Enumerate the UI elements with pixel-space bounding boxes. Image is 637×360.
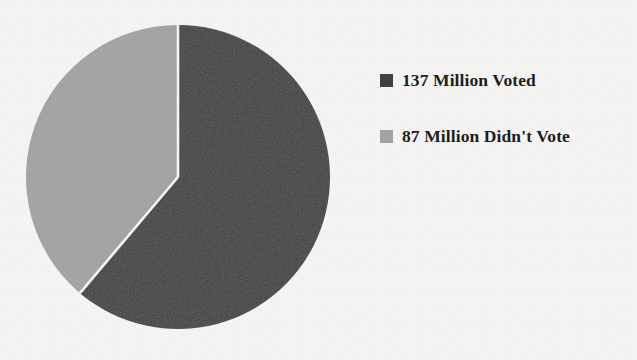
- pie-svg: [25, 24, 331, 330]
- legend-label-voted: 137 Million Voted: [402, 70, 536, 90]
- pie-chart-graphic: [25, 24, 331, 330]
- legend-item-didnt-vote[interactable]: 87 Million Didn't Vote: [380, 118, 632, 154]
- chart-legend: 137 Million Voted 87 Million Didn't Vote: [380, 62, 632, 154]
- legend-label-didnt-vote: 87 Million Didn't Vote: [402, 126, 570, 146]
- legend-swatch-voted: [380, 74, 393, 87]
- legend-swatch-didnt-vote: [380, 130, 393, 143]
- legend-item-voted[interactable]: 137 Million Voted: [380, 62, 632, 98]
- pie-chart-figure: 137 Million Voted 87 Million Didn't Vote: [0, 0, 637, 360]
